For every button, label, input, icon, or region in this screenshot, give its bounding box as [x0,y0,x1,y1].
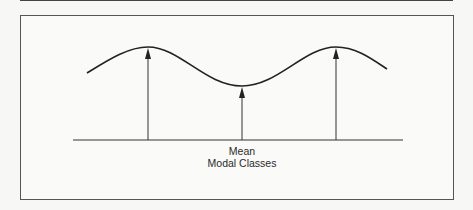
left-mode-arrow [145,48,151,140]
modal-classes-label: Modal Classes [0,157,473,169]
bimodal-diagram [0,0,473,210]
mean-label: Mean [0,145,473,157]
distribution-curve [87,47,387,86]
right-mode-arrow [333,48,339,140]
mean-arrow [239,87,245,140]
